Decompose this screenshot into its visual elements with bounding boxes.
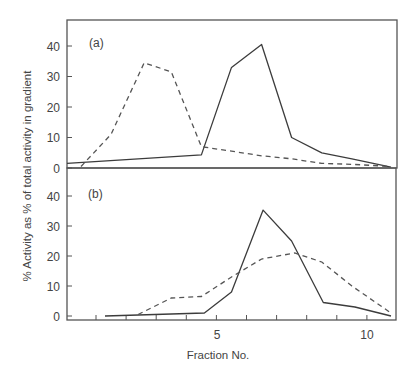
x-axis-ticks: [96, 315, 367, 320]
y-axis-label: % Activity as % of total activity in gra…: [21, 70, 33, 282]
panel-a-dashed-line: [81, 63, 391, 167]
panel-a-solid-line: [67, 45, 391, 168]
y-tick-label: 0: [53, 162, 60, 176]
panel-a: 010203040 (a): [47, 20, 397, 176]
y-tick-label: 0: [53, 310, 60, 324]
panel-b-frame: [67, 168, 396, 320]
panel-b-y-ticks: 010203040: [47, 190, 72, 324]
y-tick-label: 30: [47, 220, 61, 234]
panel-a-frame: [67, 20, 397, 168]
y-tick-label: 10: [47, 131, 61, 145]
panel-b-label: (b): [88, 187, 103, 201]
y-tick-label: 20: [47, 101, 61, 115]
panel-b-dashed-line: [138, 253, 391, 315]
panel-a-label: (a): [89, 36, 104, 50]
x-tick-label-10: 10: [360, 328, 374, 342]
panel-a-y-ticks: 010203040: [47, 40, 72, 176]
panel-b-solid-line: [105, 210, 391, 316]
x-tick-label-5: 5: [214, 328, 221, 342]
x-axis-label: Fraction No.: [187, 349, 250, 361]
y-tick-label: 40: [47, 40, 61, 54]
panel-b: 010203040 (b): [47, 168, 396, 324]
y-tick-label: 20: [47, 250, 61, 264]
y-tick-label: 40: [47, 190, 61, 204]
y-tick-label: 30: [47, 70, 61, 84]
y-tick-label: 10: [47, 280, 61, 294]
chart-figure: 010203040 (a) 010203040 (b) 5 10 Fractio…: [0, 0, 415, 374]
